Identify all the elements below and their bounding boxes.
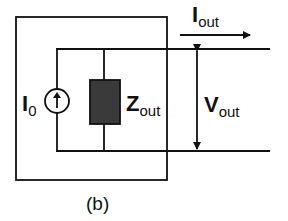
- i0-label: I0: [22, 91, 36, 119]
- current-source-icon: [45, 89, 69, 113]
- circuit-diagram: I0 Zout Vout Iout (b): [0, 0, 288, 221]
- zout-label: Zout: [126, 91, 161, 119]
- figure-caption: (b): [86, 193, 109, 214]
- iout-label: Iout: [192, 2, 220, 30]
- impedance-block-icon: [90, 80, 120, 124]
- vout-label: Vout: [204, 92, 240, 120]
